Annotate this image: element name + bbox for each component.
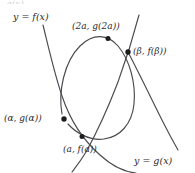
oval-arc-path	[61, 37, 135, 140]
point-marker-2a	[106, 36, 111, 41]
point-label-a: (a, f(a))	[63, 145, 97, 154]
point-label-2a: (2a, g(2a))	[72, 22, 120, 31]
point-marker-alpha	[61, 116, 66, 121]
f-curve-label: y = f(x)	[13, 12, 49, 22]
g-curve-label: y = g(x)	[134, 156, 172, 166]
point-marker-a	[80, 134, 85, 139]
math-figure: g(x) y = f(x) y = g(x) (2a, g(2a)) (β, f…	[0, 0, 195, 173]
point-marker-beta	[125, 49, 130, 54]
point-label-alpha: (α, g(α))	[4, 114, 42, 123]
f-curve-right-path	[128, 52, 178, 150]
point-label-beta: (β, f(β))	[133, 47, 167, 56]
